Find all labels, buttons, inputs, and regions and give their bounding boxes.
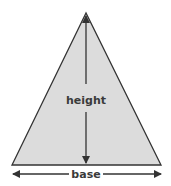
triangle-diagram: height base — [0, 0, 171, 186]
height-label: height — [66, 94, 106, 107]
base-label: base — [71, 168, 100, 181]
